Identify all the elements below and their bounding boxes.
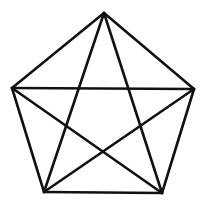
edge-bottom-right-bottom-left [44,192,162,193]
edge-top-bottom-left [44,13,104,192]
edge-right-bottom-right [162,89,194,193]
edge-left-right [12,88,194,89]
k5-graph-diagram [0,0,213,204]
edge-right-bottom-left [44,89,194,192]
edge-left-bottom-right [12,88,162,193]
edge-bottom-left-left [12,88,44,192]
edge-top-bottom-right [104,13,162,193]
